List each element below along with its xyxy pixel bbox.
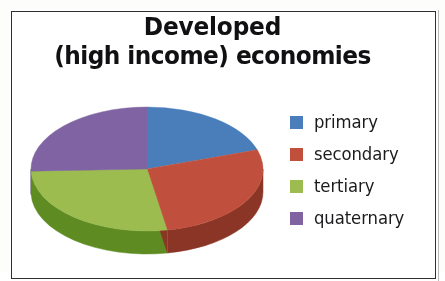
legend-swatch-tertiary (290, 180, 303, 193)
pie-slice-quaternary (31, 107, 147, 171)
legend-swatch-primary (290, 116, 303, 129)
chart-title: Developed (high income) economies (28, 12, 397, 70)
legend-item-secondary[interactable]: secondary (290, 138, 432, 170)
chart-title-line-2: (high income) economies (28, 41, 397, 70)
legend-label-tertiary: tertiary (314, 176, 374, 196)
chart-legend: primary secondary tertiary quaternary (290, 106, 432, 234)
legend-swatch-secondary (290, 148, 303, 161)
legend-label-secondary: secondary (314, 144, 399, 164)
legend-item-quaternary[interactable]: quaternary (290, 202, 432, 234)
pie-chart-svg (12, 88, 282, 258)
legend-item-tertiary[interactable]: tertiary (290, 170, 432, 202)
legend-item-primary[interactable]: primary (290, 106, 432, 138)
legend-swatch-quaternary (290, 212, 303, 225)
legend-label-primary: primary (314, 112, 378, 132)
chart-title-line-1: Developed (28, 12, 397, 41)
legend-label-quaternary: quaternary (314, 208, 404, 228)
pie-chart (12, 88, 282, 258)
